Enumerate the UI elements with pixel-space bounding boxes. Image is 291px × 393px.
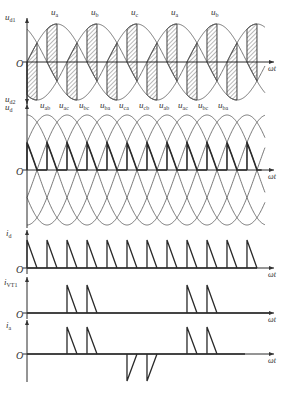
thyristor-vt1-current-panel: OωtiVT1 bbox=[4, 277, 277, 324]
line-label-ubc: ubc bbox=[198, 100, 209, 111]
line-label-ubc: ubc bbox=[79, 100, 90, 111]
line-label-uab: uab bbox=[40, 100, 50, 111]
y-axis-label-id: id bbox=[6, 228, 12, 239]
line-label-uab: uab bbox=[159, 100, 169, 111]
x-axis-label-omega-t: ωt bbox=[268, 356, 277, 365]
origin-label: O bbox=[16, 58, 23, 69]
phase-label-ua: ua bbox=[51, 7, 59, 18]
phase-a-current-panel: Oωtia bbox=[6, 320, 277, 382]
line-label-ucb: ucb bbox=[139, 100, 149, 111]
phase-label-uc: uc bbox=[131, 7, 139, 18]
origin-label: O bbox=[16, 264, 23, 275]
origin-label: O bbox=[16, 309, 23, 320]
dc-current-panel: Oωtid bbox=[6, 228, 277, 279]
phase-label-ub: ub bbox=[91, 7, 99, 18]
y-axis-label-ivt1: iVT1 bbox=[4, 277, 18, 288]
ia-negative-pulse-trace bbox=[127, 354, 157, 381]
x-axis-label-omega-t: ωt bbox=[268, 315, 277, 324]
line-label-uac: uac bbox=[59, 100, 69, 111]
y-axis-label-ia: ia bbox=[6, 320, 12, 331]
phase-label-ub: ub bbox=[211, 7, 219, 18]
line-label-uba: uba bbox=[100, 100, 111, 111]
origin-label: O bbox=[16, 166, 23, 177]
line-label-uac: uac bbox=[178, 100, 188, 111]
line-label-uca: uca bbox=[119, 100, 129, 111]
x-axis-label-omega-t: ωt bbox=[268, 172, 277, 181]
ia-positive-pulse-trace bbox=[67, 327, 217, 354]
line-voltage-panel: Oωtuduabuacubcubaucaucbuabuacubcuba bbox=[5, 100, 277, 228]
id-pulse-trace bbox=[27, 240, 257, 268]
x-axis-label-omega-t: ωt bbox=[268, 64, 277, 73]
x-axis-label-omega-t: ωt bbox=[268, 270, 277, 279]
ivt1-pulse-trace bbox=[67, 285, 217, 313]
origin-label: O bbox=[16, 350, 23, 361]
rectifier-waveform-diagram: Oωtud1ud2uaubucuaub Oωtuduabuacubcubauca… bbox=[0, 0, 291, 393]
line-label-uba: uba bbox=[218, 100, 229, 111]
y-axis-label-ud1: ud1 bbox=[5, 12, 16, 23]
phase-voltage-panel: Oωtud1ud2uaubucuaub bbox=[5, 7, 277, 105]
phase-label-ua: ua bbox=[171, 7, 179, 18]
